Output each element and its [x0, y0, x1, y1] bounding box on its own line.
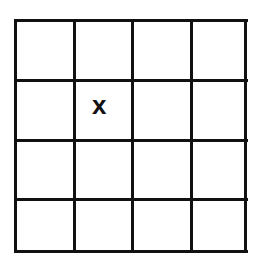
- grid-line-v1: [73, 19, 76, 252]
- grid-line-h0: [14, 19, 248, 22]
- grid-line-v4: [244, 19, 247, 252]
- grid-4x4: x: [14, 19, 245, 252]
- cell-mark-x: x: [92, 92, 106, 118]
- grid-line-h4: [14, 250, 248, 253]
- grid-line-v0: [14, 19, 17, 252]
- grid-line-v2: [131, 19, 134, 252]
- grid-line-h2: [14, 139, 248, 142]
- grid-line-v3: [190, 19, 193, 252]
- grid-line-h3: [14, 198, 248, 201]
- grid-line-h1: [14, 79, 248, 82]
